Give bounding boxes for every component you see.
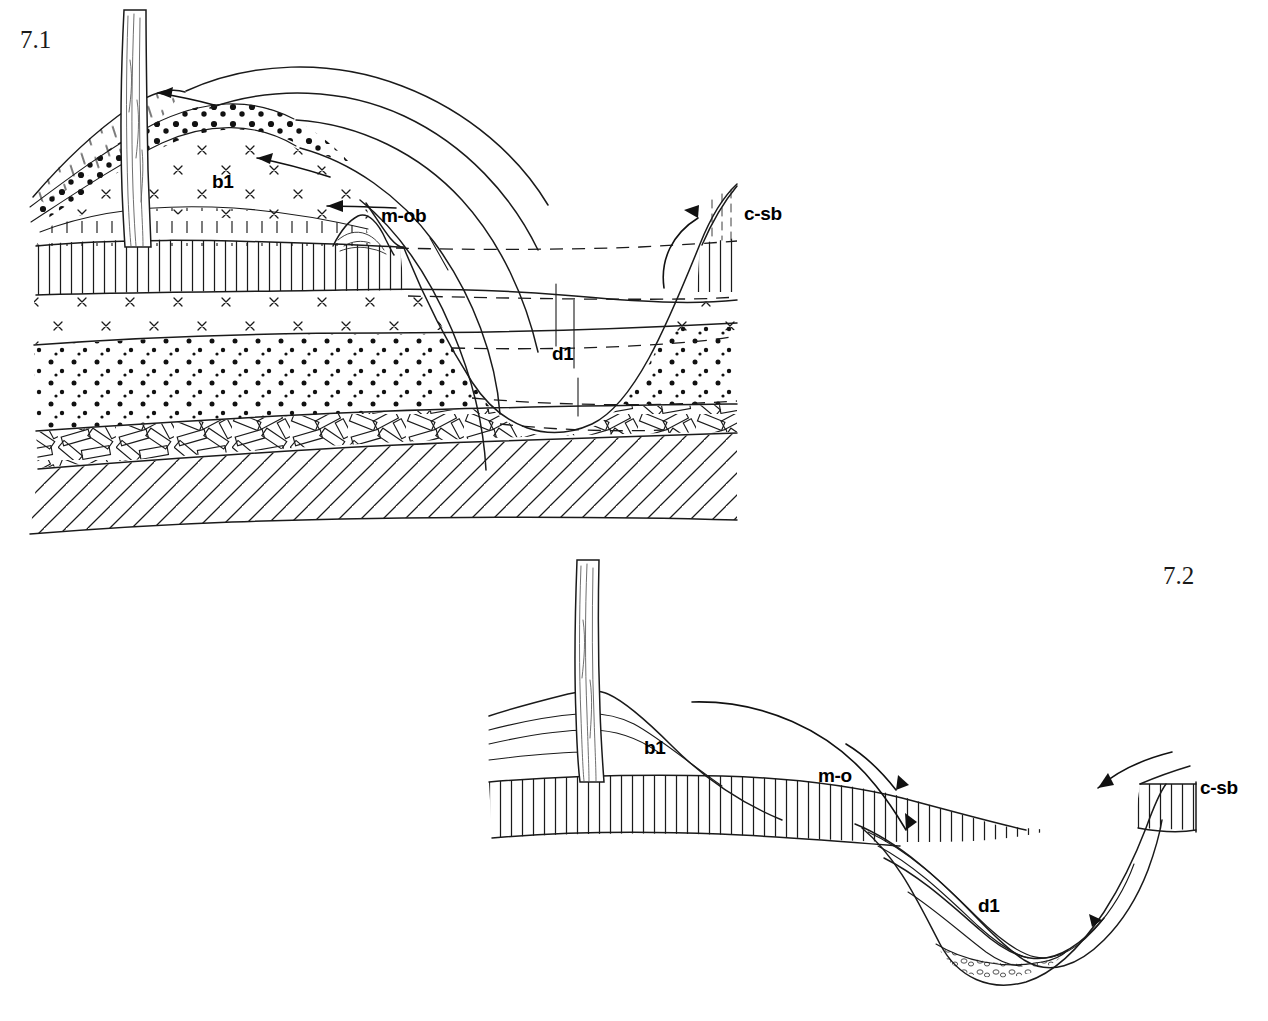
- figure-plate: 7.1 b1 m-ob c-sb d1: [0, 0, 1268, 1021]
- label-c-sb-fig71: c-sb: [744, 203, 782, 224]
- tree-trunk-7-1: [121, 10, 151, 247]
- cross-section-drawing: 7.1 b1 m-ob c-sb d1: [0, 0, 1268, 1021]
- label-c-sb-fig72: c-sb: [1200, 777, 1238, 798]
- figure-number-7-1: 7.1: [20, 26, 51, 53]
- label-m-ob-fig71: m-ob: [381, 205, 426, 226]
- label-m-o-fig72: m-o: [818, 765, 852, 786]
- label-d1-fig72: d1: [978, 895, 1000, 916]
- figure-number-7-2: 7.2: [1163, 562, 1194, 589]
- label-b1-fig72: b1: [644, 737, 666, 758]
- label-d1-fig71: d1: [552, 343, 574, 364]
- label-b1-fig71: b1: [212, 171, 234, 192]
